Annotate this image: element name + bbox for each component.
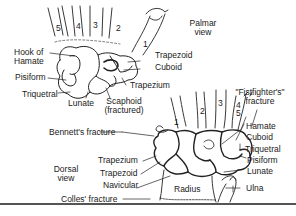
label-dorsal-trapezium: Trapezium: [98, 156, 138, 165]
bottom-divider: [0, 203, 296, 205]
palmar-digit-1: 1: [143, 40, 148, 49]
palmar-carpals: [55, 40, 138, 98]
label-dorsal-triquetral: Triquetral: [245, 145, 281, 154]
dorsal-digit-3: 3: [218, 99, 223, 108]
palmar-view-label: Palmar view: [183, 19, 223, 37]
label-fistfighters-fracture: "Fistfighter's" fracture: [224, 88, 296, 106]
label-radius: Radius: [174, 185, 200, 194]
label-dorsal-cuboid: Cuboid: [246, 133, 273, 142]
dorsal-digit-5: 5: [236, 109, 241, 118]
palmar-digit-2: 2: [116, 24, 121, 33]
label-ulna: Ulna: [246, 184, 263, 193]
label-bennetts-fracture: Bennett's fracture: [49, 128, 115, 137]
dorsal-digit-1: 1: [174, 118, 179, 127]
label-dorsal-trapezoid: Trapezoid: [100, 169, 137, 178]
label-palmar-triquetral: Triquetral: [22, 90, 58, 99]
label-palmar-trapezoid: Trapezoid: [155, 51, 192, 60]
palmar-digit-4: 4: [76, 22, 81, 31]
label-hook-of-hamate: Hook of Hamate: [14, 48, 44, 66]
palmar-digit-5: 5: [56, 24, 61, 33]
label-palmar-lunate: Lunate: [68, 99, 94, 108]
palmar-digit-3: 3: [93, 21, 98, 30]
label-dorsal-pisiform: Pisiform: [247, 156, 278, 165]
label-dorsal-lunate: Lunate: [247, 167, 273, 176]
label-navicular: Navicular: [103, 181, 138, 190]
label-dorsal-hamate: Hamate: [246, 122, 276, 131]
label-palmar-pisiform: Pisiform: [15, 73, 46, 82]
dorsal-view-label: Dorsal view: [48, 165, 84, 183]
dorsal-digit-2: 2: [200, 107, 205, 116]
label-palmar-cuboid: Cuboid: [155, 63, 182, 72]
label-scaphoid-fractured: Scaphoid (fractured): [100, 97, 148, 115]
label-palmar-trapezium: Trapezium: [130, 81, 170, 90]
